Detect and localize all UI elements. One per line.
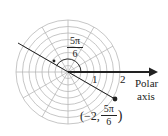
point-label-suffix: ) (118, 109, 123, 123)
plotted-point (113, 97, 118, 102)
angle-arrowhead-icon (53, 60, 56, 63)
tick-label-1: 1 (92, 74, 98, 85)
angle-label-denominator: 6 (73, 49, 78, 59)
angle-label-numerator: 5π (70, 36, 80, 46)
point-label-prefix: (−2, (80, 110, 100, 122)
polar-axis-label-line1: Polar (135, 78, 158, 89)
point-angle-numerator: 5π (104, 104, 114, 114)
point-label: (−2, 5π 6 ) (80, 104, 122, 127)
polar-axis-label-line2: axis (137, 91, 155, 102)
polar-axis-arrow-icon (149, 68, 158, 77)
tick-label-2: 2 (120, 74, 126, 85)
point-angle-denominator: 6 (106, 117, 111, 127)
point-angle-fraction: 5π 6 (101, 104, 117, 127)
angle-label: 5π 6 (67, 36, 83, 59)
